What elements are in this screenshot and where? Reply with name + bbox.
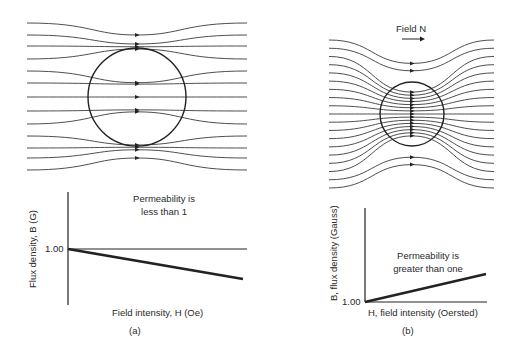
- graph-b-x-axis-label: H, field intensity (Oersted): [368, 307, 478, 318]
- diagram-canvas: [0, 0, 516, 358]
- graph-b-y-axis-label: B, flux density (Gauss): [328, 205, 339, 301]
- paramagnetic-field-lines: [329, 40, 494, 188]
- graph-a-x-axis-label: Field intensity, H (Oe): [112, 307, 203, 318]
- graph-a-y-tick: 1.00: [45, 243, 64, 254]
- graph-a-annotation-line1: Permeability is: [123, 193, 205, 204]
- graph-b-annotation-line2: greater than one: [384, 263, 472, 274]
- field-direction-arrow-icon: [402, 37, 425, 42]
- graph-b-y-tick: 1.00: [342, 296, 361, 307]
- graph-a-annotation-line2: less than 1: [123, 206, 205, 217]
- caption-b: (b): [402, 325, 414, 336]
- graph-b-annotation-line1: Permeability is: [384, 250, 472, 261]
- caption-a: (a): [129, 325, 141, 336]
- graph-a-y-axis-label: Flux density, B (G): [27, 210, 38, 288]
- field-label: Field N: [396, 23, 426, 34]
- diamagnetic-field-lines: [27, 23, 247, 170]
